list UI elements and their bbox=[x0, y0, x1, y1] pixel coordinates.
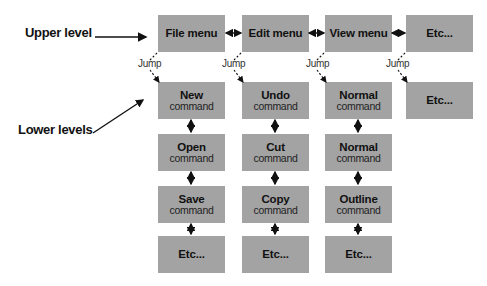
arrows-layer bbox=[0, 0, 487, 286]
jump-arrow bbox=[398, 53, 407, 82]
jump-arrow bbox=[317, 53, 326, 82]
lower-levels-arrow bbox=[93, 100, 143, 133]
jump-arrow bbox=[234, 53, 243, 82]
jump-arrow bbox=[150, 53, 159, 82]
